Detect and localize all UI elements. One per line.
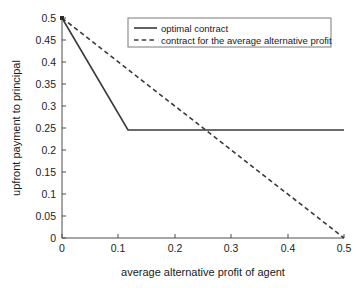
x-axis-title: average alternative profit of agent bbox=[121, 266, 285, 278]
legend-label-optimal-contract: optimal contract bbox=[161, 23, 228, 34]
y-tick-label: 0.25 bbox=[36, 122, 57, 134]
y-tick-label: 0.15 bbox=[36, 166, 57, 178]
y-tick-label: 0 bbox=[50, 232, 56, 244]
y-tick-label: 0.05 bbox=[36, 210, 57, 222]
legend-label-average-alternative-profit: contract for the average alternative pro… bbox=[161, 35, 332, 46]
x-tick-label: 0.5 bbox=[337, 242, 352, 254]
chart-figure: 0 0.05 0.1 0.15 0.2 0.25 0.3 0.35 0.4 0.… bbox=[0, 0, 359, 288]
line-chart: 0 0.05 0.1 0.15 0.2 0.25 0.3 0.35 0.4 0.… bbox=[0, 0, 359, 288]
origin-marker bbox=[60, 16, 64, 20]
y-tick-label: 0.4 bbox=[41, 56, 56, 68]
y-axis-tick-labels: 0 0.05 0.1 0.15 0.2 0.25 0.3 0.35 0.4 0.… bbox=[36, 12, 57, 244]
y-axis-title: upfront payment to principal bbox=[10, 60, 22, 196]
y-tick-label: 0.5 bbox=[41, 12, 56, 24]
x-tick-label: 0 bbox=[59, 242, 65, 254]
x-tick-label: 0.2 bbox=[168, 242, 183, 254]
y-tick-label: 0.35 bbox=[36, 78, 57, 90]
y-tick-label: 0.3 bbox=[41, 100, 56, 112]
x-tick-label: 0.4 bbox=[281, 242, 296, 254]
x-tick-label: 0.1 bbox=[111, 242, 126, 254]
y-tick-label: 0.2 bbox=[41, 144, 56, 156]
y-tick-label: 0.1 bbox=[41, 188, 56, 200]
y-axis-ticks bbox=[62, 18, 66, 238]
y-tick-label: 0.45 bbox=[36, 34, 57, 46]
x-axis-ticks bbox=[62, 234, 344, 238]
x-tick-label: 0.3 bbox=[224, 242, 239, 254]
series-line-dashed bbox=[62, 18, 344, 238]
chart-legend: optimal contract contract for the averag… bbox=[128, 18, 332, 47]
x-axis-tick-labels: 0 0.1 0.2 0.3 0.4 0.5 bbox=[59, 242, 351, 254]
